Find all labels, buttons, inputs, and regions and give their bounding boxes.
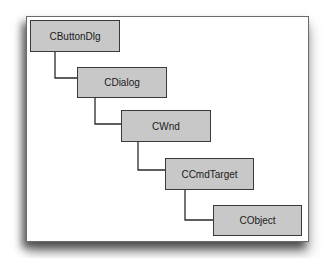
class-label: CObject [239, 215, 275, 226]
class-label: CWnd [152, 121, 180, 132]
connector-cbuttondlg-cdialog [55, 52, 77, 78]
class-node-cwnd: CWnd [121, 110, 211, 142]
class-label: CCmdTarget [181, 169, 237, 180]
class-node-cobject: CObject [213, 205, 302, 236]
class-node-ccmdtarget: CCmdTarget [165, 158, 254, 190]
connector-cwnd-ccmdtarget [138, 142, 165, 170]
connector-cdialog-cwnd [95, 98, 121, 124]
class-node-cbuttondlg: CButtonDlg [30, 20, 120, 52]
class-node-cdialog: CDialog [77, 67, 167, 98]
class-label: CButtonDlg [49, 31, 100, 42]
connector-ccmdtarget-cobject [185, 190, 213, 220]
class-label: CDialog [104, 77, 140, 88]
